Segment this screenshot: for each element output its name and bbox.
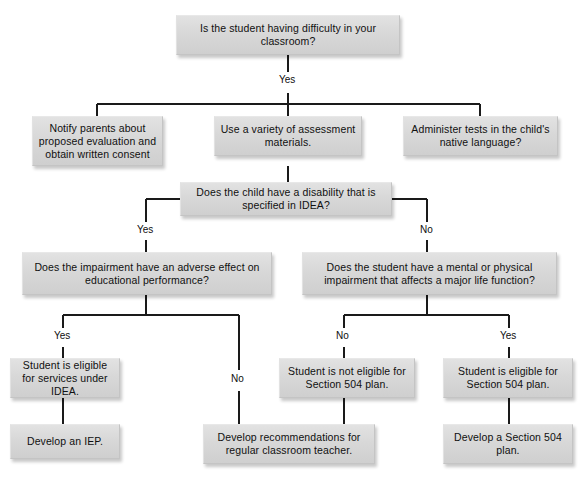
edge-label-no-idea: No xyxy=(418,224,435,235)
node-label: Does the student have a mental or physic… xyxy=(308,261,551,287)
connector-lines xyxy=(0,0,579,479)
node-adverse-effect[interactable]: Does the impairment have an adverse effe… xyxy=(22,252,272,295)
node-assessment-materials[interactable]: Use a variety of assessment materials. xyxy=(214,116,362,156)
node-label: Develop a Section 504 plan. xyxy=(449,431,567,457)
node-not-eligible-504[interactable]: Student is not eligible for Section 504 … xyxy=(279,358,415,398)
node-label: Student is eligible for services under I… xyxy=(16,359,114,398)
edge-label-yes-504: Yes xyxy=(498,330,518,341)
node-student-difficulty[interactable]: Is the student having difficulty in your… xyxy=(176,15,400,55)
node-eligible-504[interactable]: Student is eligible for Section 504 plan… xyxy=(443,358,573,398)
node-label: Student is not eligible for Section 504 … xyxy=(285,365,409,391)
node-label: Does the child have a disability that is… xyxy=(186,186,386,212)
node-develop-recommendations[interactable]: Develop recommendations for regular clas… xyxy=(203,424,375,464)
node-label: Notify parents about proposed evaluation… xyxy=(38,122,157,161)
node-disability-in-idea[interactable]: Does the child have a disability that is… xyxy=(180,182,392,216)
node-develop-iep[interactable]: Develop an IEP. xyxy=(10,424,120,459)
node-develop-504-plan[interactable]: Develop a Section 504 plan. xyxy=(443,424,573,464)
flowchart-diagram: Is the student having difficulty in your… xyxy=(0,0,579,479)
edge-label-no-504: No xyxy=(334,330,351,341)
node-label: Develop an IEP. xyxy=(16,435,114,448)
node-label: Develop recommendations for regular clas… xyxy=(209,431,369,457)
node-native-language-tests[interactable]: Administer tests in the child's native l… xyxy=(403,116,558,156)
node-label: Use a variety of assessment materials. xyxy=(220,123,356,149)
edge-label-yes-idea: Yes xyxy=(135,224,155,235)
node-major-life-function[interactable]: Does the student have a mental or physic… xyxy=(302,252,557,295)
node-label: Student is eligible for Section 504 plan… xyxy=(449,365,567,391)
edge-label-no-adverse: No xyxy=(229,373,246,384)
edge-label-yes-top: Yes xyxy=(277,74,297,85)
node-notify-parents[interactable]: Notify parents about proposed evaluation… xyxy=(32,116,163,166)
edge-label-yes-adverse: Yes xyxy=(52,330,72,341)
node-label: Is the student having difficulty in your… xyxy=(182,22,394,48)
node-label: Administer tests in the child's native l… xyxy=(409,123,552,149)
node-label: Does the impairment have an adverse effe… xyxy=(28,261,266,287)
node-eligible-idea[interactable]: Student is eligible for services under I… xyxy=(10,358,120,398)
